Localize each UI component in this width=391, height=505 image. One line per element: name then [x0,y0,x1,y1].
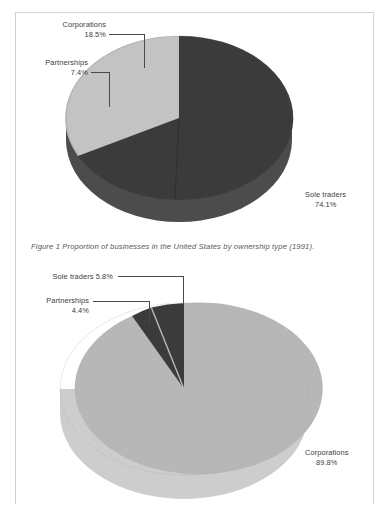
label-bottom-partnerships: Partnerships 4.4% [10,296,89,315]
label-bottom-corporations-value: 89.8% [305,458,337,468]
label-top-corporations: Corporations 18.5% [10,20,106,39]
label-bottom-partnerships-name: Partnerships [46,296,89,305]
label-top-partnerships: Partnerships 7.4% [6,58,88,77]
pie-chart-top-graphic [66,26,294,226]
leader-line-partnerships-bottom-vertical [149,301,150,323]
label-top-partnerships-name: Partnerships [45,58,88,67]
label-top-sole-traders: Sole traders 74.1% [305,190,385,209]
label-bottom-sole-traders-text: Sole traders 5.8% [53,272,113,281]
leader-line-corporations-top-vertical [144,34,145,68]
leader-line-partnerships-top [91,72,110,73]
leader-line-sole-traders-bottom [118,276,184,277]
leader-line-sole-traders-bottom-vertical [183,276,184,303]
label-top-corporations-value: 18.5% [85,30,106,39]
figure-caption: Figure 1 Proportion of businesses in the… [31,241,361,252]
label-bottom-sole-traders: Sole traders 5.8% [12,272,113,282]
leader-line-partnerships-bottom [93,301,150,302]
label-top-sole-traders-name: Sole traders [305,190,346,199]
label-bottom-partnerships-value: 4.4% [72,306,89,315]
label-top-corporations-name: Corporations [62,20,106,29]
label-top-sole-traders-value: 74.1% [305,200,336,210]
pie-chart-bottom-graphic [60,301,308,501]
label-bottom-corporations-name: Corporations [305,448,349,457]
leader-line-corporations-top [109,34,145,35]
label-top-partnerships-value: 7.4% [71,68,88,77]
leader-line-partnerships-top-vertical [109,72,110,107]
label-bottom-corporations: Corporations 89.8% [305,448,389,467]
